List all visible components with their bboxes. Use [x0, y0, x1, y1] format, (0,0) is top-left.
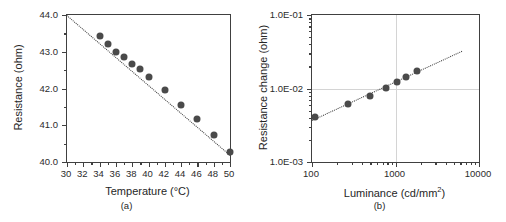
x-tick-minor — [337, 162, 338, 165]
x-tick-minor — [189, 162, 190, 165]
data-point — [96, 33, 103, 40]
x-tick-minor — [362, 162, 363, 165]
x-tick-label: 30 — [61, 168, 72, 179]
data-point — [112, 48, 119, 55]
data-point — [402, 74, 409, 81]
trendline — [66, 15, 230, 155]
y-tick-label: 41.0 — [0, 119, 58, 130]
x-tick-label: 48 — [207, 168, 218, 179]
data-point — [137, 66, 144, 73]
y-tick-minor — [309, 22, 312, 23]
x-tick-major — [479, 162, 480, 167]
x-tick-minor — [108, 162, 109, 165]
data-point — [366, 93, 373, 100]
x-tick-minor — [466, 162, 467, 165]
x-tick-major — [67, 162, 68, 167]
x-tick-minor — [124, 162, 125, 165]
data-point — [121, 53, 128, 60]
data-point — [227, 148, 234, 155]
x-tick-major — [230, 162, 231, 167]
y-tick-major — [62, 89, 67, 90]
data-point — [394, 78, 401, 85]
x-tick-major — [100, 162, 101, 167]
x-tick-minor — [377, 162, 378, 165]
x-tick-label: 10000 — [465, 168, 491, 179]
x-tick-major — [197, 162, 198, 167]
y-tick-minor — [64, 107, 67, 108]
data-point — [145, 73, 152, 80]
y-tick-minor — [309, 18, 312, 19]
x-tick-minor — [222, 162, 223, 165]
y-tick-minor — [309, 26, 312, 27]
x-tick-major — [214, 162, 215, 167]
y-tick-minor — [64, 33, 67, 34]
x-tick-minor — [383, 162, 384, 165]
panel-b: Resistance change (ohm) Luminance (cd/mm… — [253, 0, 506, 222]
x-tick-major — [312, 162, 313, 167]
x-tick-minor — [140, 162, 141, 165]
data-point — [178, 102, 185, 109]
x-tick-label: 1000 — [384, 168, 405, 179]
x-tick-label: 40 — [142, 168, 153, 179]
x-tick-minor — [460, 162, 461, 165]
x-tick-minor — [392, 162, 393, 165]
x-tick-minor — [352, 162, 353, 165]
x-tick-major — [116, 162, 117, 167]
y-tick-minor — [309, 66, 312, 67]
x-tick-minor — [206, 162, 207, 165]
x-tick-minor — [387, 162, 388, 165]
y-tick-minor — [309, 127, 312, 128]
y-tick-minor — [309, 37, 312, 38]
data-point — [383, 85, 390, 92]
y-tick-major — [62, 52, 67, 53]
y-tick-label: 1.0E-02 — [253, 82, 303, 93]
gridline-vertical — [396, 15, 397, 162]
y-tick-minor — [309, 53, 312, 54]
y-tick-label: 44.0 — [0, 9, 58, 20]
x-tick-label: 50 — [224, 168, 235, 179]
x-tick-minor — [91, 162, 92, 165]
x-tick-minor — [435, 162, 436, 165]
data-point — [194, 116, 201, 123]
figure-two-panel-charts: Resistance (ohm) Temperature (°C) (a) 40… — [0, 0, 506, 222]
y-tick-minor — [64, 144, 67, 145]
x-tick-major — [181, 162, 182, 167]
x-tick-minor — [75, 162, 76, 165]
y-tick-label: 1.0E-03 — [253, 156, 303, 167]
data-point — [312, 113, 319, 120]
y-tick-minor — [309, 140, 312, 141]
data-point — [129, 60, 136, 67]
x-tick-minor — [157, 162, 158, 165]
data-point — [345, 101, 352, 108]
y-tick-label: 40.0 — [0, 156, 58, 167]
x-axis-title-b-suffix: ) — [442, 187, 446, 199]
x-tick-label: 44 — [175, 168, 186, 179]
x-tick-label: 38 — [126, 168, 137, 179]
y-tick-minor — [309, 111, 312, 112]
y-tick-minor — [64, 70, 67, 71]
data-point — [161, 87, 168, 94]
y-tick-minor — [309, 44, 312, 45]
data-point — [104, 40, 111, 47]
x-tick-label: 32 — [77, 168, 88, 179]
panel-caption-a: (a) — [0, 200, 253, 211]
plot-area-b — [311, 14, 480, 163]
x-tick-label: 46 — [191, 168, 202, 179]
y-tick-minor — [309, 92, 312, 93]
x-tick-major — [165, 162, 166, 167]
x-axis-title-b: Luminance (cd/mm2) — [311, 185, 478, 199]
y-tick-minor — [309, 105, 312, 106]
y-tick-minor — [309, 96, 312, 97]
data-point — [210, 132, 217, 139]
y-tick-label: 42.0 — [0, 82, 58, 93]
x-axis-title-b-prefix: Luminance (cd/mm — [344, 187, 438, 199]
x-tick-minor — [370, 162, 371, 165]
y-tick-major — [307, 89, 312, 90]
x-tick-minor — [421, 162, 422, 165]
x-tick-major — [149, 162, 150, 167]
x-tick-minor — [471, 162, 472, 165]
x-tick-label: 100 — [303, 168, 319, 179]
x-axis-title-a: Temperature (°C) — [66, 185, 229, 197]
x-tick-label: 34 — [93, 168, 104, 179]
panel-a: Resistance (ohm) Temperature (°C) (a) 40… — [0, 0, 253, 222]
